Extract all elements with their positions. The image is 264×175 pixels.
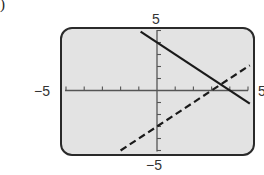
x-min-label: −5	[34, 84, 50, 98]
y-max-label: 5	[152, 12, 160, 26]
y-min-label: −5	[146, 158, 162, 172]
x-max-label: 5	[258, 84, 264, 98]
